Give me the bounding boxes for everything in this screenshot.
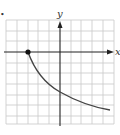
y-axis: [58, 21, 63, 126]
curve: [28, 52, 110, 110]
x-axis-label: x: [115, 46, 120, 57]
item-bullet: •: [0, 10, 5, 19]
point-marker: [25, 49, 30, 54]
x-axis-arrow-icon: [107, 50, 114, 55]
graph: y x •: [0, 0, 120, 135]
y-axis-label: y: [56, 8, 63, 19]
x-axis: [4, 50, 114, 55]
y-axis-arrow-icon: [58, 21, 63, 28]
